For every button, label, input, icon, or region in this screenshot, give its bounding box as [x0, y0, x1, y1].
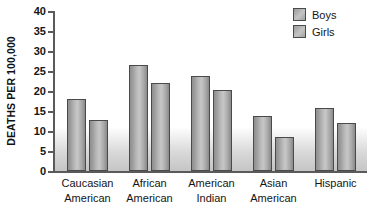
bar-boys	[129, 65, 148, 171]
legend-item-girls: Girls	[293, 25, 371, 38]
bar-girls	[151, 83, 170, 171]
y-tick-label-30: 30	[6, 46, 46, 57]
bar-boys	[253, 116, 272, 171]
y-tick-label-40: 40	[6, 6, 46, 17]
y-tick-label-10: 10	[6, 126, 46, 137]
x-label-line: American	[236, 191, 311, 206]
chart-title-clipped	[60, 0, 310, 5]
y-axis-tick-labels: 4035302520151050	[6, 11, 46, 172]
bar-group	[129, 11, 170, 171]
legend-label-girls: Girls	[312, 26, 335, 38]
legend-swatch-icon-girls	[293, 25, 306, 38]
bar-girls	[337, 123, 356, 171]
y-tick-label-5: 5	[6, 146, 46, 157]
bar-girls	[275, 137, 294, 171]
bar-girls	[89, 120, 108, 171]
y-tick-label-35: 35	[6, 26, 46, 37]
y-tick-label-25: 25	[6, 66, 46, 77]
legend-item-boys: Boys	[293, 8, 371, 21]
y-tick-label-0: 0	[6, 166, 46, 177]
bar-group	[191, 11, 232, 171]
x-label: Hispanic	[298, 176, 371, 191]
bar-group	[67, 11, 108, 171]
y-tick-label-20: 20	[6, 86, 46, 97]
x-axis-category-labels: CaucasianAmericanAfricanAmericanAmerican…	[53, 176, 371, 214]
legend: Boys Girls	[293, 8, 371, 42]
bar-girls	[213, 90, 232, 171]
bar-group	[253, 11, 294, 171]
bar-boys	[191, 76, 210, 171]
bar-chart: DEATHS PER 100,000 4035302520151050 Cauc…	[0, 0, 371, 214]
y-tick-label-15: 15	[6, 106, 46, 117]
x-label-line: Hispanic	[298, 176, 371, 191]
legend-label-boys: Boys	[312, 9, 336, 21]
legend-swatch-icon-boys	[293, 8, 306, 21]
bar-boys	[67, 99, 86, 171]
bar-boys	[315, 108, 334, 171]
